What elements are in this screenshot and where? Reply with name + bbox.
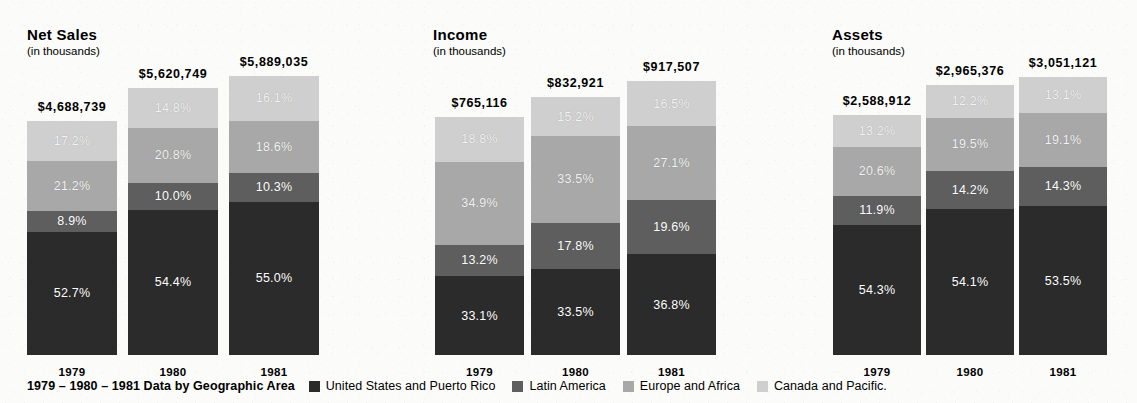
legend-item[interactable]: Canada and Pacific.	[757, 379, 887, 393]
bar-total-label: $5,889,035	[240, 55, 309, 69]
bar-total-label: $2,965,376	[936, 64, 1005, 78]
chart-legend: 1979 – 1980 – 1981 Data by Geographic Ar…	[27, 379, 904, 393]
bar-segment: 8.9%	[27, 211, 117, 232]
bar-stack: 13.1%19.1%14.3%53.5%	[1019, 77, 1107, 355]
bar-year-label: 1980	[562, 366, 589, 378]
bar-total-label: $3,051,121	[1029, 56, 1098, 70]
bar-segment: 18.8%	[435, 117, 524, 162]
segment-percentage-label: 19.6%	[653, 220, 689, 234]
bar-segment: 52.7%	[27, 232, 117, 355]
bar-total-label: $765,116	[451, 96, 507, 110]
legend-item[interactable]: Europe and Africa	[623, 379, 740, 393]
segment-percentage-label: 18.8%	[461, 132, 497, 146]
segment-percentage-label: 36.8%	[653, 298, 689, 312]
bar-segment: 27.1%	[627, 126, 716, 200]
bar-column: 18.8%34.9%13.2%33.1%$765,1161979	[435, 117, 524, 355]
bar-column: 15.2%33.5%17.8%33.5%$832,9211980	[531, 97, 620, 355]
segment-percentage-label: 16.5%	[653, 97, 689, 111]
segment-percentage-label: 11.9%	[859, 203, 895, 217]
bar-segment: 12.2%	[926, 85, 1014, 118]
panel-subtitle: (in thousands)	[832, 45, 905, 57]
bar-segment: 14.2%	[926, 171, 1014, 209]
segment-percentage-label: 10.3%	[256, 180, 292, 194]
legend-swatch-icon	[512, 381, 523, 392]
bar-segment: 19.1%	[1019, 113, 1107, 166]
bar-column: 13.2%20.6%11.9%54.3%$2,588,9121979	[833, 115, 921, 355]
bar-column: 17.2%21.2%8.9%52.7%$4,688,7391979	[27, 121, 117, 355]
segment-percentage-label: 8.9%	[57, 214, 86, 228]
bar-segment: 14.8%	[128, 88, 218, 128]
bar-segment: 53.5%	[1019, 206, 1107, 355]
panel-subtitle: (in thousands)	[27, 45, 100, 57]
bar-year-label: 1979	[466, 366, 493, 378]
legend-items: United States and Puerto RicoLatin Ameri…	[309, 379, 904, 393]
bar-year-label: 1979	[58, 366, 85, 378]
segment-percentage-label: 19.5%	[952, 137, 988, 151]
bar-segment: 36.8%	[627, 254, 716, 355]
bar-segment: 34.9%	[435, 162, 524, 245]
panel-subtitle: (in thousands)	[433, 45, 506, 57]
legend-item[interactable]: Latin America	[512, 379, 605, 393]
bar-segment: 20.6%	[833, 147, 921, 196]
segment-percentage-label: 34.9%	[461, 196, 497, 210]
segment-percentage-label: 52.7%	[54, 286, 90, 300]
segment-percentage-label: 33.5%	[557, 305, 593, 319]
bar-total-label: $832,921	[547, 76, 604, 90]
segment-percentage-label: 21.2%	[54, 179, 90, 193]
bar-year-label: 1980	[956, 366, 983, 378]
bar-stack: 16.1%18.6%10.3%55.0%	[229, 76, 319, 355]
bar-year-label: 1981	[260, 366, 287, 378]
bar-segment: 13.1%	[1019, 77, 1107, 113]
bar-segment: 13.2%	[435, 245, 524, 276]
bar-segment: 10.0%	[128, 183, 218, 210]
panel-income: Income (in thousands) 18.8%34.9%13.2%33.…	[400, 0, 800, 403]
segment-percentage-label: 13.2%	[859, 124, 895, 138]
bar-column: 16.5%27.1%19.6%36.8%$917,5071981	[627, 81, 716, 355]
bar-segment: 15.2%	[531, 97, 620, 136]
bar-segment: 16.5%	[627, 81, 716, 126]
bar-segment: 54.1%	[926, 209, 1014, 355]
segment-percentage-label: 54.4%	[155, 275, 191, 289]
bar-stack: 18.8%34.9%13.2%33.1%	[435, 117, 524, 355]
bar-segment: 20.8%	[128, 128, 218, 184]
bar-segment: 54.3%	[833, 225, 921, 355]
segment-percentage-label: 54.1%	[952, 275, 988, 289]
bar-total-label: $5,620,749	[139, 67, 208, 81]
bar-column: 14.8%20.8%10.0%54.4%$5,620,7491980	[128, 88, 218, 355]
bar-segment: 19.5%	[926, 118, 1014, 171]
segment-percentage-label: 16.1%	[256, 91, 292, 105]
segment-percentage-label: 17.8%	[557, 239, 593, 253]
segment-percentage-label: 27.1%	[653, 156, 689, 170]
segment-percentage-label: 20.8%	[155, 148, 191, 162]
legend-swatch-icon	[309, 381, 320, 392]
chart-page: Net Sales (in thousands) 17.2%21.2%8.9%5…	[0, 0, 1137, 403]
segment-percentage-label: 17.2%	[54, 134, 90, 148]
bar-total-label: $917,507	[643, 60, 700, 74]
segment-percentage-label: 12.2%	[952, 94, 988, 108]
legend-item[interactable]: United States and Puerto Rico	[309, 379, 496, 393]
bar-stack: 17.2%21.2%8.9%52.7%	[27, 121, 117, 355]
panel-net-sales: Net Sales (in thousands) 17.2%21.2%8.9%5…	[0, 0, 400, 403]
panel-title: Net Sales	[27, 26, 97, 43]
segment-percentage-label: 14.2%	[952, 183, 988, 197]
bar-stack: 13.2%20.6%11.9%54.3%	[833, 115, 921, 355]
bar-segment: 17.2%	[27, 121, 117, 161]
segment-percentage-label: 55.0%	[256, 271, 292, 285]
bar-segment: 16.1%	[229, 76, 319, 121]
bar-column: 16.1%18.6%10.3%55.0%$5,889,0351981	[229, 76, 319, 355]
bar-year-label: 1980	[159, 366, 186, 378]
legend-swatch-icon	[757, 381, 768, 392]
bar-column: 13.1%19.1%14.3%53.5%$3,051,1211981	[1019, 77, 1107, 355]
legend-label: United States and Puerto Rico	[326, 379, 496, 393]
bar-segment: 33.5%	[531, 136, 620, 222]
panel-assets: Assets (in thousands) 13.2%20.6%11.9%54.…	[800, 0, 1137, 403]
bar-year-label: 1981	[658, 366, 685, 378]
segment-percentage-label: 53.5%	[1045, 274, 1081, 288]
legend-label: Latin America	[529, 379, 605, 393]
segment-percentage-label: 20.6%	[859, 164, 895, 178]
legend-label: Europe and Africa	[640, 379, 740, 393]
bar-year-label: 1981	[1049, 366, 1076, 378]
legend-caption: 1979 – 1980 – 1981 Data by Geographic Ar…	[27, 379, 295, 393]
bar-stack: 16.5%27.1%19.6%36.8%	[627, 81, 716, 355]
segment-percentage-label: 15.2%	[557, 110, 593, 124]
